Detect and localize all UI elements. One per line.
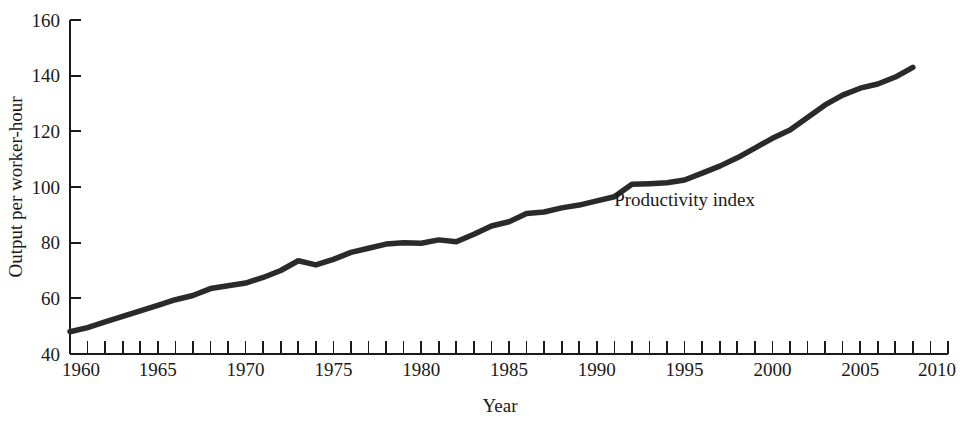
- data-line-productivity-index: [70, 67, 913, 331]
- x-tick-label: 2010: [918, 359, 956, 380]
- y-tick-label: 80: [41, 232, 60, 253]
- x-tick-label: 1980: [402, 359, 440, 380]
- x-tick-label: 1960: [62, 359, 100, 380]
- y-tick-label: 160: [32, 10, 61, 31]
- y-tick-label: 100: [32, 177, 61, 198]
- y-tick-label: 140: [32, 65, 61, 86]
- y-axis: 406080100120140160: [32, 10, 82, 365]
- y-tick-label: 120: [32, 121, 61, 142]
- x-tick-label: 1970: [227, 359, 265, 380]
- x-tick-label: 2000: [753, 359, 791, 380]
- x-tick-label: 2005: [841, 359, 879, 380]
- chart-page: 406080100120140160 196019651970197519801…: [0, 0, 968, 421]
- x-axis-title: Year: [482, 395, 518, 416]
- y-tick-label: 40: [41, 344, 60, 365]
- series-annotation-label: Productivity index: [614, 189, 755, 210]
- x-tick-label: 1965: [139, 359, 177, 380]
- y-tick-label: 60: [41, 288, 60, 309]
- x-tick-label: 1985: [490, 359, 528, 380]
- productivity-line-chart: 406080100120140160 196019651970197519801…: [0, 0, 968, 421]
- x-tick-label: 1995: [666, 359, 704, 380]
- x-axis: 1960196519701975198019851990199520002005…: [62, 341, 956, 380]
- plot-area: Productivity index: [70, 67, 913, 331]
- x-tick-label: 1990: [578, 359, 616, 380]
- x-tick-label: 1975: [314, 359, 352, 380]
- y-axis-title: Output per worker-hour: [5, 96, 26, 278]
